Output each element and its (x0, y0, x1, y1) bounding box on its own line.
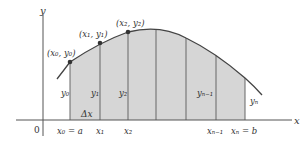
height-label-n-1: yₙ₋₁ (196, 88, 213, 98)
height-label-1: y₁ (90, 88, 99, 98)
point-2 (126, 30, 131, 35)
origin-label: 0 (34, 125, 40, 135)
height-label-0: y₀ (60, 88, 70, 98)
point-label-0: (x₀, y₀) (47, 48, 75, 58)
x-tick-2: x₂ (124, 126, 133, 136)
x-tick-n: xₙ = b (231, 126, 257, 136)
point-label-1: (x₁, y₁) (79, 29, 107, 39)
y-axis-label: y (39, 5, 46, 16)
x-tick-n-1: xₙ₋₁ (207, 126, 223, 136)
x-tick-1: x₁ (96, 126, 104, 136)
delta-x-label: Δx (80, 109, 93, 119)
point-1 (98, 41, 103, 46)
x-axis-label: x (294, 115, 300, 126)
point-0 (68, 60, 73, 65)
x-tick-0: x₀ = a (57, 126, 83, 136)
point-label-2: (x₂, y₂) (116, 18, 144, 28)
trapezoid-rule-diagram: y x 0 (x₀, y₀) (x₁, y₁) (x₂, y₂) y₀ y₁ y… (0, 0, 304, 143)
height-label-2: y₂ (118, 88, 128, 98)
height-label-n: yₙ (249, 96, 259, 106)
shaded-area (70, 29, 245, 120)
